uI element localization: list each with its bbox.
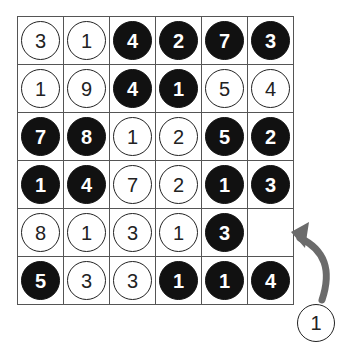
disc-value: 4	[265, 271, 276, 291]
black-disc: 4	[113, 21, 152, 60]
black-disc: 1	[159, 69, 198, 108]
grid-cell[interactable]: 1	[202, 257, 248, 305]
disc-value: 1	[173, 271, 184, 291]
grid-cell[interactable]: 4	[64, 161, 110, 209]
grid-cell[interactable]: 1	[18, 161, 64, 209]
black-disc: 5	[21, 261, 60, 300]
white-disc: 1	[67, 213, 106, 252]
black-disc: 8	[67, 117, 106, 156]
grid-cell[interactable]: 1	[18, 65, 64, 113]
white-disc: 3	[113, 213, 152, 252]
grid-cell[interactable]: 3	[248, 17, 294, 65]
white-disc: 9	[67, 69, 106, 108]
disc-value: 3	[35, 31, 46, 51]
white-disc: 3	[21, 21, 60, 60]
grid-cell[interactable]: 7	[202, 17, 248, 65]
grid-cell[interactable]: 3	[18, 17, 64, 65]
disc-value: 8	[81, 127, 92, 147]
disc-value: 2	[173, 175, 184, 195]
disc-value: 1	[81, 31, 92, 51]
white-disc: 1	[67, 21, 106, 60]
disc-value: 2	[173, 127, 184, 147]
disc-value: 3	[81, 271, 92, 291]
grid-cell[interactable]: 1	[110, 113, 156, 161]
disc-value: 7	[219, 31, 230, 51]
grid-cell[interactable]: 2	[156, 113, 202, 161]
white-disc: 8	[21, 213, 60, 252]
disc-value: 4	[265, 79, 276, 99]
white-disc: 1	[159, 213, 198, 252]
grid-cell[interactable]: 4	[110, 65, 156, 113]
black-disc: 1	[205, 261, 244, 300]
disc-value: 1	[35, 79, 46, 99]
grid-cell[interactable]: 4	[110, 17, 156, 65]
disc-value: 1	[127, 127, 138, 147]
disc-value: 5	[219, 79, 230, 99]
black-disc: 2	[251, 117, 290, 156]
grid-cell[interactable]: 9	[64, 65, 110, 113]
disc-value: 3	[219, 223, 230, 243]
grid-cell[interactable]: 3	[202, 209, 248, 257]
disc-value: 4	[81, 175, 92, 195]
disc-value: 1	[173, 79, 184, 99]
black-disc: 1	[205, 165, 244, 204]
grid-cell[interactable]: 3	[110, 257, 156, 305]
grid-cell[interactable]: 3	[248, 161, 294, 209]
disc-value: 2	[265, 127, 276, 147]
grid-cell[interactable]: 5	[202, 113, 248, 161]
black-disc: 1	[159, 261, 198, 300]
grid-cell[interactable]: 2	[156, 161, 202, 209]
disc-value: 3	[265, 31, 276, 51]
grid-cell[interactable]: 1	[202, 161, 248, 209]
disc-value: 5	[219, 127, 230, 147]
grid-cell[interactable]: 4	[248, 65, 294, 113]
grid-cell[interactable]: 7	[110, 161, 156, 209]
black-disc: 4	[251, 261, 290, 300]
grid-cell[interactable]: 4	[248, 257, 294, 305]
black-disc: 3	[205, 213, 244, 252]
black-disc: 5	[205, 117, 244, 156]
black-disc: 7	[21, 117, 60, 156]
grid-cell[interactable]: 1	[64, 209, 110, 257]
black-disc: 3	[251, 21, 290, 60]
disc-value: 3	[127, 271, 138, 291]
grid-cell[interactable]: 1	[156, 65, 202, 113]
grid-cell[interactable]: 8	[64, 113, 110, 161]
disc-value: 5	[35, 271, 46, 291]
loose-piece-value: 1	[310, 313, 321, 333]
disc-value: 1	[173, 223, 184, 243]
grid-cell[interactable]: 1	[64, 17, 110, 65]
loose-piece[interactable]: 1	[297, 304, 335, 342]
disc-value: 1	[219, 271, 230, 291]
black-disc: 2	[159, 21, 198, 60]
grid-cell[interactable]: 5	[18, 257, 64, 305]
disc-value: 2	[173, 31, 184, 51]
grid-cell[interactable]: 1	[156, 209, 202, 257]
grid-cell[interactable]: 7	[18, 113, 64, 161]
grid-cell[interactable]: 1	[156, 257, 202, 305]
grid-cell[interactable]: 2	[156, 17, 202, 65]
disc-value: 3	[265, 175, 276, 195]
disc-value: 4	[127, 31, 138, 51]
empty-cell[interactable]	[248, 209, 294, 257]
black-disc: 7	[205, 21, 244, 60]
grid-cell[interactable]: 8	[18, 209, 64, 257]
white-disc: 2	[159, 117, 198, 156]
grid-cell[interactable]: 5	[202, 65, 248, 113]
white-disc: 5	[205, 69, 244, 108]
black-disc: 4	[67, 165, 106, 204]
white-disc: 1	[113, 117, 152, 156]
white-disc: 3	[67, 261, 106, 300]
black-disc: 3	[251, 165, 290, 204]
grid-cell[interactable]: 2	[248, 113, 294, 161]
disc-value: 8	[35, 223, 46, 243]
disc-value: 7	[127, 175, 138, 195]
disc-value: 1	[35, 175, 46, 195]
black-disc: 4	[113, 69, 152, 108]
puzzle-grid: 31427319415478125214721381313533114	[17, 16, 294, 305]
grid-cell[interactable]: 3	[64, 257, 110, 305]
grid-cell[interactable]: 3	[110, 209, 156, 257]
white-disc: 7	[113, 165, 152, 204]
disc-value: 1	[219, 175, 230, 195]
disc-value: 3	[127, 223, 138, 243]
